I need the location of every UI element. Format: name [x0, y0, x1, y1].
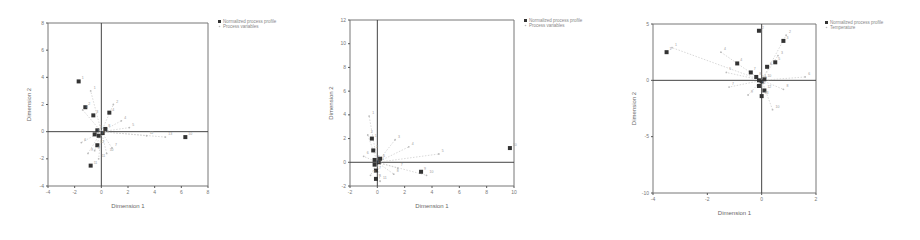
chart1-x-tick-label: 0 [100, 189, 103, 195]
chart2-point-label: 9 [424, 167, 426, 171]
chart2-point-label: 10 [513, 143, 517, 147]
chart2-point-label: 2 [376, 145, 378, 149]
chart3-point-label: 6 [808, 72, 810, 76]
chart1-point-label: 1 [82, 76, 84, 80]
chart2-variable-point [393, 173, 395, 175]
chart2-profile-point [371, 148, 375, 152]
chart3-point-label: 4 [724, 47, 726, 51]
chart2-point-label: 11 [383, 176, 387, 180]
chart1-profile-point [103, 127, 107, 131]
chart3-profile-point [665, 50, 669, 54]
chart2-point-label: 7 [379, 166, 381, 170]
chart1-y-tick-label: 2 [41, 101, 44, 107]
chart3-legend-marker-dot [826, 27, 828, 29]
chart3-profile-point [757, 84, 761, 88]
chart2-x-tick-label: 2 [403, 189, 406, 195]
chart1-point-label: 3 [86, 105, 88, 109]
chart2-y-tick-label: 4 [343, 111, 346, 117]
chart2-y-tick-label: 10 [340, 40, 346, 46]
chart3-profile-point [760, 94, 764, 98]
chart1-variable-point [98, 158, 100, 160]
chart1-y-tick-label: 8 [41, 20, 44, 26]
chart3-variable-point [783, 88, 785, 90]
chart1-profile-point [183, 135, 187, 139]
chart1-profile-point [97, 134, 101, 138]
chart1-point-label: 2 [88, 102, 90, 106]
chart2-point-label: 6 [383, 154, 385, 158]
chart3-y-tick-label: 0 [646, 77, 649, 83]
chart2-y-tick-label: 0 [343, 159, 346, 165]
chart3-x-axis-title: Dimension 1 [718, 210, 752, 216]
chart2-x-tick-label: 4 [431, 189, 434, 195]
chart3-y-tick-label: 5 [646, 21, 649, 27]
chart3-y-axis-title: Dimension 2 [631, 91, 637, 125]
chart1-point-label: 3 [96, 110, 98, 114]
chart3-point-label: 12 [767, 85, 771, 89]
chart2-point-label: 8 [379, 174, 381, 178]
chart3-point-label: 7 [732, 82, 734, 86]
chart2-variable-point [367, 134, 369, 136]
chart3-x-tick-label: 0 [760, 196, 763, 202]
chart3-point-label: 2 [762, 26, 764, 30]
chart1-x-tick-label: 2 [127, 189, 130, 195]
chart1-variable-point [164, 136, 166, 138]
chart2-variable-point [408, 146, 410, 148]
chart1-x-tick-label: -4 [46, 189, 51, 195]
chart2-profile-point [378, 157, 382, 161]
chart1-point-label: 2 [116, 100, 118, 104]
chart3-point-label: 1 [675, 43, 677, 47]
chart3-variable-point [804, 76, 806, 78]
chart2-profile-point [419, 170, 423, 174]
chart2-y-tick-label: 2 [343, 135, 346, 141]
chart2-variable-point [379, 180, 381, 182]
chart1-point-label: 9 [91, 148, 93, 152]
chart1-variable-point [87, 153, 89, 155]
chart3-point-label: 3 [781, 51, 783, 55]
chart3-point-label: 8 [786, 84, 788, 88]
chart3-profile-point [773, 60, 777, 64]
chart3-variable-point [777, 55, 779, 57]
chart2-x-tick-label: 6 [458, 189, 461, 195]
chart1-legend-label-2: Process variables [223, 24, 259, 29]
chart3-variable-point [728, 86, 730, 88]
chart3-x-tick-label: -4 [651, 196, 656, 202]
chart2-y-tick-label: 6 [343, 88, 346, 94]
chart1-variable-point [106, 153, 108, 155]
chart1-variable-point [90, 90, 92, 92]
chart1-y-tick-label: 4 [41, 74, 44, 80]
chart1-variable-point [128, 127, 130, 129]
chart3-profile-point [765, 65, 769, 69]
chart2-y-tick-label: -2 [342, 183, 347, 189]
chart1-variable-vector [101, 132, 165, 137]
chart1-point-label: 12 [100, 140, 104, 144]
chart1-point-label: 5 [132, 123, 134, 127]
chart2-point-label: 5 [442, 149, 444, 153]
chart1-y-tick-label: 0 [41, 128, 44, 134]
chart2-point-label: 1 [375, 134, 377, 138]
chart2-profile-point [373, 163, 377, 167]
chart2-point-label: 6 [367, 151, 369, 155]
chart3-profile-point [757, 78, 761, 82]
chart3-y-tick-label: -5 [645, 133, 650, 139]
chart3-y-tick-label: -10 [642, 190, 649, 196]
chart2-point-label: 8 [397, 169, 399, 173]
chart1-x-axis-title: Dimension 1 [111, 203, 145, 209]
chart1-profile-point [107, 111, 111, 115]
chart1-point-label: 7 [102, 131, 104, 135]
chart1-x-tick-label: 8 [207, 189, 210, 195]
chart1-point-label: 7 [115, 143, 117, 147]
chart1-y-tick-label: -2 [40, 155, 45, 161]
chart1-x-tick-label: 4 [153, 189, 156, 195]
chart1-point-label: 13 [168, 132, 172, 136]
chart1-point-label: 6 [84, 138, 86, 142]
chart1-profile-point [89, 164, 93, 168]
chart3-variable-vector [672, 48, 762, 81]
chart3-x-tick-label: 2 [815, 196, 818, 202]
chart1-variable-point [112, 104, 114, 106]
chart2-variable-point [394, 139, 396, 141]
chart1-point-label: 4 [112, 108, 114, 112]
chart1-point-label: 8 [108, 124, 110, 128]
chart3-point-label: 13 [765, 91, 769, 95]
chart1-variable-point [94, 150, 96, 152]
chart3-point-label: 2 [789, 30, 791, 34]
